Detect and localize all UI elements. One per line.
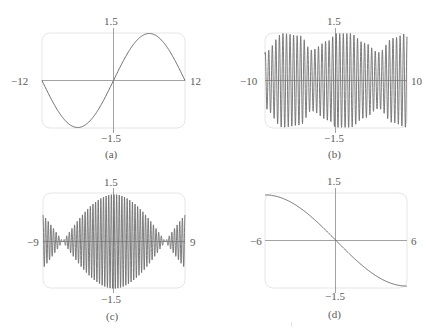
y-max-label: 1.5	[327, 175, 341, 187]
y-min-label: −1.5	[325, 290, 345, 302]
plot-d	[0, 0, 435, 333]
x-min-label: −6	[250, 235, 262, 247]
x-max-label: 6	[411, 235, 417, 247]
stray-mark	[291, 322, 292, 327]
caption-d: (d)	[328, 308, 341, 320]
